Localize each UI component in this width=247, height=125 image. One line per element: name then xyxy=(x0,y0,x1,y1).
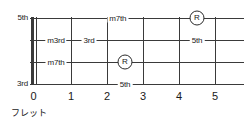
fret-number-2: 2 xyxy=(104,90,110,102)
degree-label: 5th xyxy=(118,80,133,89)
string-line-1 xyxy=(30,18,244,19)
fret-number-4: 4 xyxy=(176,90,182,102)
fret-axis-caption: フレット xyxy=(11,106,47,119)
fret-line-1 xyxy=(71,17,72,85)
fret-number-1: 1 xyxy=(68,90,74,102)
nut-line xyxy=(31,17,34,85)
fretboard-diagram: 5th 3rd m7thRm3rd3rd5thm7thR5th 012345 フ… xyxy=(0,0,247,125)
fret-line-2 xyxy=(107,17,108,85)
degree-label: m3rd xyxy=(45,36,66,45)
edge-label-top: 5th xyxy=(6,13,28,22)
degree-label: m7th xyxy=(107,14,128,23)
edge-label-bottom: 3rd xyxy=(6,79,28,88)
degree-label: 3rd xyxy=(82,36,97,45)
fret-line-3 xyxy=(143,17,144,85)
degree-label: m7th xyxy=(46,58,67,67)
fret-number-3: 3 xyxy=(140,90,146,102)
string-line-4 xyxy=(30,84,244,85)
fret-line-4 xyxy=(179,17,180,85)
nut-inner-line xyxy=(36,17,37,85)
fret-number-5: 5 xyxy=(212,90,218,102)
root-marker: R xyxy=(190,11,205,26)
fret-number-0: 0 xyxy=(30,90,36,102)
root-marker: R xyxy=(118,55,133,70)
fret-line-5 xyxy=(215,17,216,85)
degree-label: 5th xyxy=(190,36,205,45)
